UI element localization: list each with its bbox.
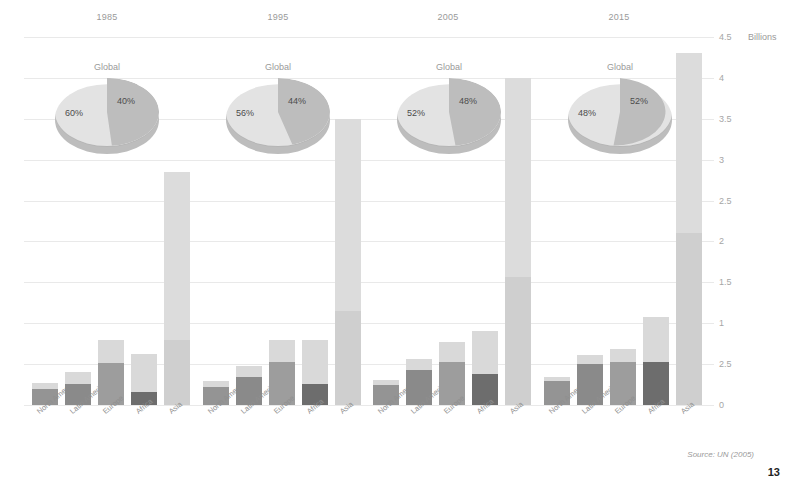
bar-segment-rural (472, 331, 498, 374)
bar-segment-rural (302, 340, 328, 384)
gridline (24, 241, 714, 242)
pie-label-rural: 48% (578, 108, 596, 118)
page-number: 13 (768, 466, 780, 478)
bar-segment-rural (643, 317, 669, 362)
bar-segment-rural (131, 354, 157, 392)
bar-segment-rural (676, 53, 702, 233)
bar-segment-rural (98, 340, 124, 363)
pie-label-rural: 60% (65, 108, 83, 118)
bar-segment-rural (577, 355, 603, 364)
year-label-1995: 1995 (248, 12, 308, 22)
bar-segment-rural (335, 119, 361, 311)
axis-tick-label: 4 (719, 73, 724, 83)
bar-segment-rural (406, 359, 432, 370)
gridline (24, 323, 714, 324)
axis-tick-label: 4.5 (719, 32, 732, 42)
pie-label-urban: 48% (459, 96, 477, 106)
axis-tick-label: 3 (719, 155, 724, 165)
bar-2015-asia (676, 53, 702, 405)
axis-tick-label: 1 (719, 318, 724, 328)
pie-title: Global (47, 62, 167, 72)
axis-tick-label: 2.5 (719, 196, 732, 206)
pie-title: Global (560, 62, 680, 72)
pie-chart-2005: Global 52% 48% (389, 62, 509, 158)
pie-chart-1985: Global 60% 40% (47, 62, 167, 158)
bar-segment-urban (505, 277, 531, 405)
bar-1985-africa (131, 354, 157, 406)
bar-segment-rural (439, 342, 465, 362)
axis-tick-label: 3.5 (719, 114, 732, 124)
bar-segment-rural (505, 78, 531, 278)
gridline (24, 201, 714, 202)
gridline (24, 160, 714, 161)
bar-segment-rural (65, 372, 91, 383)
pie-label-urban: 40% (117, 96, 135, 106)
bar-1985-asia (164, 172, 190, 405)
bar-1995-africa (302, 340, 328, 405)
pie-chart-1995: Global 56% 44% (218, 62, 338, 158)
gridline (24, 405, 714, 406)
bar-2015-africa (643, 317, 669, 405)
axis-tick-label: 2.5 (719, 359, 732, 369)
year-label-2015: 2015 (589, 12, 649, 22)
year-label-2005: 2005 (418, 12, 478, 22)
bar-segment-urban (676, 233, 702, 405)
bar-segment-urban (164, 340, 190, 405)
bar-segment-urban (643, 362, 669, 405)
pie-label-rural: 52% (407, 108, 425, 118)
bar-segment-urban (335, 311, 361, 405)
bar-2005-asia (505, 78, 531, 405)
pie-chart-2015: Global 48% 52% (560, 62, 680, 158)
bar-segment-rural (269, 340, 295, 363)
population-figure: 4.543.532.521.512.50Billions 1985 1995 2… (0, 0, 786, 484)
bar-2005-africa (472, 331, 498, 405)
pie-title: Global (218, 62, 338, 72)
bar-segment-rural (236, 366, 262, 377)
pie-label-rural: 56% (236, 108, 254, 118)
pie-title: Global (389, 62, 509, 72)
pie-label-urban: 44% (288, 96, 306, 106)
year-label-1985: 1985 (77, 12, 137, 22)
axis-tick-label: 0 (719, 400, 724, 410)
axis-tick-label: 2 (719, 236, 724, 246)
pie-label-urban: 52% (630, 96, 648, 106)
source-note: Source: UN (2005) (687, 450, 754, 459)
gridline (24, 282, 714, 283)
bar-1995-asia (335, 119, 361, 405)
bar-segment-rural (610, 349, 636, 362)
gridline (24, 37, 714, 38)
bar-segment-rural (164, 172, 190, 340)
axis-unit-label: Billions (748, 32, 777, 42)
axis-tick-label: 1.5 (719, 277, 732, 287)
